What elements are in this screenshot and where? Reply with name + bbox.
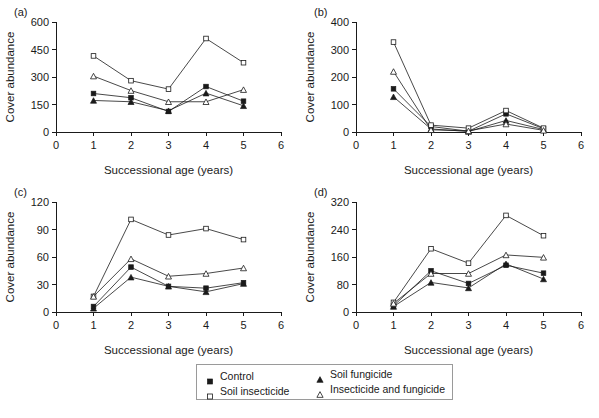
data-point-marker: [129, 78, 134, 83]
cropped-caption-line: [30, 406, 390, 414]
y-axis-tick-label: 90: [37, 224, 49, 236]
y-axis-tick-label: 0: [43, 126, 49, 138]
series-line-control: [394, 89, 544, 131]
x-axis-tick-label: 0: [53, 139, 59, 151]
x-axis-tick-label: 3: [165, 139, 171, 151]
y-axis-tick-label: 0: [343, 126, 349, 138]
legend-entry-soil-insecticide: Soil insecticide: [205, 386, 289, 397]
x-axis-tick-label: 1: [390, 139, 396, 151]
data-point-marker: [241, 60, 246, 65]
panel-letter-label: (a): [14, 6, 27, 18]
y-axis-tick-label: 600: [31, 16, 49, 28]
x-axis-title: Successional age (years): [404, 164, 533, 176]
x-axis-tick-label: 4: [503, 319, 509, 331]
series-line-soil-insecticide: [394, 42, 544, 128]
x-axis-tick-label: 0: [353, 319, 359, 331]
series-markers-soil-insecticide: [91, 36, 246, 91]
chart-panel-b: (b)01002003004000123456Successional age …: [300, 0, 599, 180]
data-point-marker: [129, 217, 134, 222]
x-axis-tick-label: 4: [203, 319, 209, 331]
y-axis-tick-label: 450: [31, 44, 49, 56]
x-axis-tick-label: 0: [353, 139, 359, 151]
data-point-marker: [391, 87, 396, 92]
figure-container: (a)01503004506000123456Successional age …: [0, 0, 599, 418]
series-markers-soil-fungicide: [91, 274, 247, 311]
y-axis-tick-label: 120: [31, 196, 49, 208]
data-point-marker: [128, 274, 134, 280]
x-axis-tick-label: 5: [540, 139, 546, 151]
y-axis-tick-label: 200: [331, 71, 349, 83]
y-axis-title: Cover abundance: [304, 32, 316, 123]
data-point-marker: [541, 233, 546, 238]
x-axis-tick-label: 1: [90, 139, 96, 151]
x-axis-tick-label: 2: [128, 139, 134, 151]
panel-letter-label: (b): [314, 6, 327, 18]
data-point-marker: [541, 271, 546, 276]
legend-label-soil-insecticide: Soil insecticide: [220, 386, 289, 397]
legend-row-2: Soil insecticide Insecticide and fungici…: [205, 384, 289, 399]
legend-label-soil-fungicide: Soil fungicide: [330, 369, 392, 380]
series-markers-insecticide-and-fungicide: [391, 69, 547, 134]
data-point-marker: [504, 108, 509, 113]
data-point-marker: [129, 265, 134, 270]
data-point-marker: [466, 261, 471, 266]
data-point-marker: [541, 276, 547, 282]
y-axis-title: Cover abundance: [4, 212, 16, 303]
x-axis-tick-label: 5: [240, 319, 246, 331]
data-point-marker: [241, 237, 246, 242]
x-axis-tick-label: 5: [540, 319, 546, 331]
y-axis-tick-label: 240: [331, 224, 349, 236]
data-point-marker: [91, 54, 96, 59]
x-axis-tick-label: 3: [465, 139, 471, 151]
x-axis-tick-label: 4: [203, 139, 209, 151]
data-point-marker: [204, 36, 209, 41]
filled-triangle-icon: [315, 370, 325, 380]
x-axis-title: Successional age (years): [104, 164, 233, 176]
legend-label-control: Control: [220, 371, 254, 382]
x-axis-tick-label: 2: [428, 319, 434, 331]
y-axis-tick-label: 60: [37, 251, 49, 263]
data-point-marker: [91, 91, 96, 96]
x-axis-tick-label: 1: [390, 319, 396, 331]
series-line-soil-insecticide: [94, 39, 244, 90]
data-point-marker: [504, 213, 509, 218]
panel-letter-label: (d): [314, 186, 327, 198]
x-axis-tick-label: 6: [278, 139, 284, 151]
open-triangle-icon: [315, 385, 325, 395]
data-point-marker: [203, 90, 209, 96]
chart-panel-d: (d)0801602403200123456Successional age (…: [300, 180, 599, 360]
data-point-marker: [241, 103, 247, 109]
data-point-marker: [241, 87, 247, 93]
data-point-marker: [204, 226, 209, 231]
legend-entry-soil-fungicide: Soil fungicide: [315, 369, 392, 380]
x-axis-title: Successional age (years): [104, 344, 233, 356]
y-axis-tick-label: 0: [43, 306, 49, 318]
legend-row-1: Control Soil fungicide: [205, 369, 254, 384]
y-axis-tick-label: 80: [337, 279, 349, 291]
x-axis-tick-label: 1: [90, 319, 96, 331]
y-axis-title: Cover abundance: [4, 32, 16, 123]
figure-legend: Control Soil fungicide Soil insecticide …: [196, 364, 453, 400]
series-markers-insecticide-and-fungicide: [91, 256, 247, 299]
data-point-marker: [391, 94, 397, 100]
data-point-marker: [91, 73, 97, 79]
data-point-marker: [429, 246, 434, 251]
x-axis-tick-label: 6: [578, 319, 584, 331]
data-point-marker: [204, 84, 209, 89]
series-line-insecticide-and-fungicide: [394, 72, 544, 131]
y-axis-tick-label: 400: [331, 16, 349, 28]
chart-panel-a: (a)01503004506000123456Successional age …: [0, 0, 299, 180]
y-axis-tick-label: 300: [31, 71, 49, 83]
x-axis-title: Successional age (years): [404, 344, 533, 356]
series-markers-soil-insecticide: [391, 40, 546, 131]
x-axis-tick-label: 5: [240, 139, 246, 151]
data-point-marker: [391, 40, 396, 45]
legend-entry-control: Control: [205, 371, 254, 382]
x-axis-tick-label: 2: [128, 319, 134, 331]
y-axis-tick-label: 150: [31, 99, 49, 111]
series-markers-soil-fungicide: [391, 261, 547, 309]
filled-square-icon: [205, 372, 215, 382]
y-axis-title: Cover abundance: [304, 212, 316, 303]
y-axis-tick-label: 100: [331, 99, 349, 111]
legend-label-insecticide-and-fungicide: Insecticide and fungicide: [330, 384, 445, 395]
